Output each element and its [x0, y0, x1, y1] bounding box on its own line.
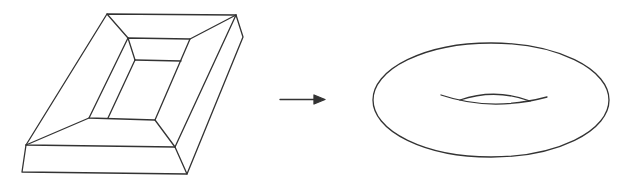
right-arrow-icon — [280, 95, 325, 104]
frame-solid-shape — [22, 14, 243, 174]
figure-canvas: A framed rectangular solid with a hole t… — [0, 0, 640, 185]
torus-shape — [373, 43, 609, 157]
diagram-svg — [0, 0, 640, 185]
